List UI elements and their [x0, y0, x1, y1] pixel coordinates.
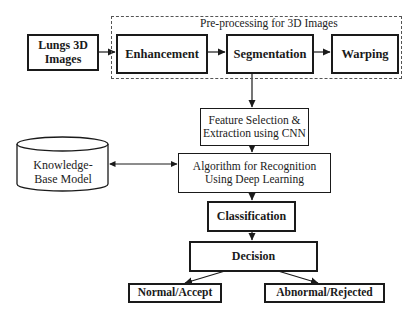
decision-node: Decision — [189, 241, 318, 272]
enhancement-label: Enhancement — [125, 47, 199, 61]
feature-extraction-node: Feature Selection & Extraction using CNN — [200, 108, 309, 146]
enhancement-node: Enhancement — [116, 34, 208, 74]
feature-extraction-label: Feature Selection & Extraction using CNN — [203, 114, 307, 140]
knowledge-base-label: Knowledge-Base Model — [22, 158, 104, 187]
warping-label: Warping — [341, 47, 388, 61]
abnormal-rejected-label: Abnormal/Rejected — [276, 286, 372, 299]
normal-accept-node: Normal/Accept — [128, 283, 222, 303]
normal-accept-label: Normal/Accept — [138, 286, 213, 299]
algorithm-node: Algorithm for Recognition Using Deep Lea… — [178, 153, 331, 193]
lungs-3d-images-node: Lungs 3D Images — [27, 34, 99, 71]
classification-label: Classification — [217, 210, 286, 224]
classification-node: Classification — [207, 201, 296, 232]
segmentation-node: Segmentation — [226, 34, 314, 74]
warping-node: Warping — [331, 34, 399, 74]
arrow-decision-to-normal — [185, 271, 225, 283]
preprocessing-group-label: Pre-processing for 3D Images — [200, 17, 338, 29]
segmentation-label: Segmentation — [234, 47, 307, 61]
lungs-3d-images-label: Lungs 3D Images — [36, 39, 90, 67]
algorithm-label: Algorithm for Recognition Using Deep Lea… — [182, 160, 328, 186]
abnormal-rejected-node: Abnormal/Rejected — [264, 283, 385, 303]
decision-label: Decision — [232, 250, 275, 264]
arrow-decision-to-abnormal — [278, 271, 318, 283]
